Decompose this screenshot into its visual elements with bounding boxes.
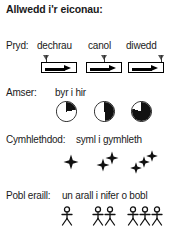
row-caption-people: un arall i nifer o bobl [62,190,147,201]
arrow-box-outline [128,62,164,73]
right-arrow-icon [90,66,117,71]
stick-figure-icon-few [91,206,117,226]
pie-clock-icon-long [131,101,152,122]
arrow-box-icon-middle [86,55,124,73]
arrow-box-icon-start [41,55,79,73]
row-label-complexity: Cymhlethdod: [6,134,65,145]
star-sparkle-icon-moderate [92,150,126,174]
row-caption-duration: byr i hir [55,87,86,98]
legend-row-complexity: Cymhlethdod: syml i gymhleth [0,134,172,178]
right-arrow-icon [132,66,159,71]
legend-row-when: Pryd: dechrau canol diwedd [0,40,172,74]
arrow-box-icon-end [128,55,166,73]
legend-row-duration: Amser: byr i hir [0,87,172,127]
star-sparkle-icon-simple [54,150,88,174]
legend-row-people: Pobl eraill: un arall i nifer o bobl [0,190,172,234]
star-sparkle-icon-complex [128,150,162,174]
term-dechrau: dechrau [37,40,72,51]
row-label-duration: Amser: [6,87,36,98]
pie-clock-icon-short [56,101,77,122]
icon-key-panel: Allwedd i'r eiconau: Pryd: dechrau canol… [0,0,172,234]
term-canol: canol [88,40,111,51]
arrow-box-outline [41,62,77,73]
page-title: Allwedd i'r eiconau: [6,3,103,15]
stick-figure-icon-one [60,206,74,226]
row-label-when: Pryd: [6,40,28,51]
row-caption-complexity: syml i gymhleth [76,134,142,145]
right-arrow-icon [45,66,72,71]
row-label-people: Pobl eraill: [6,190,50,201]
stick-figure-icon-many [126,206,164,226]
pie-clock-icon-medium [94,101,115,122]
arrow-box-outline [86,62,122,73]
term-diwedd: diwedd [126,40,157,51]
